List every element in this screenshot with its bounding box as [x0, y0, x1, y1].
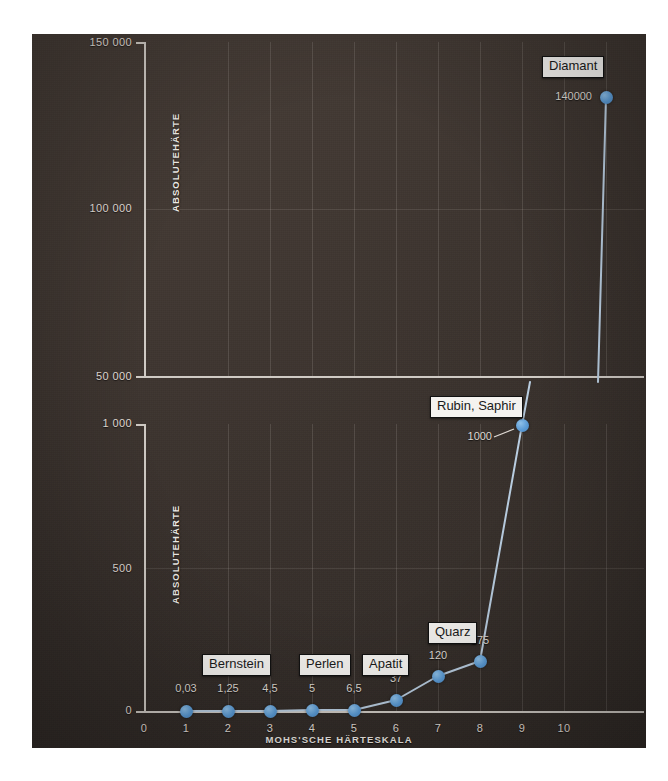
- xtick-0: 0: [124, 722, 164, 734]
- data-point-4-5[interactable]: [264, 705, 277, 718]
- xtick-8: 8: [460, 722, 500, 734]
- upper-y-axis-line: [144, 42, 146, 377]
- xtick-9: 9: [502, 722, 542, 734]
- data-point-talk-0-03[interactable]: [180, 705, 193, 718]
- data-point-perlen[interactable]: [306, 704, 319, 717]
- lower-panel: 1 000 500 0 ABSOLUTEHÄRTE 0,03 1,2: [32, 382, 646, 748]
- data-point-diamant[interactable]: [600, 91, 613, 104]
- lower-axis-bottom-tick: [136, 711, 145, 713]
- callout-bernstein: Bernstein: [202, 654, 271, 676]
- xtick-6: 6: [376, 722, 416, 734]
- data-point-37[interactable]: [390, 694, 403, 707]
- xtick-10: 10: [544, 722, 584, 734]
- callout-apatit: Apatit: [362, 654, 409, 676]
- data-point-bernstein[interactable]: [222, 705, 235, 718]
- callout-quarz: Quarz: [428, 622, 477, 644]
- data-point-apatit[interactable]: [348, 704, 361, 717]
- lower-x-axis-line: [144, 711, 644, 713]
- value-label-1000: 1000: [430, 430, 492, 442]
- xtick-2: 2: [208, 722, 248, 734]
- value-label-140000: 140000: [520, 90, 592, 102]
- upper-ytick-50000: 50 000: [46, 370, 132, 382]
- lower-axis-top-tick: [136, 424, 145, 426]
- chart-page: 150 000 100 000 50 000 ABSOLUTEHÄRTE 140…: [0, 0, 668, 781]
- upper-x-axis-line: [144, 376, 644, 378]
- callout-perlen: Perlen: [299, 654, 351, 676]
- lower-ytick-500: 500: [46, 562, 132, 574]
- data-point-rubin-saphir[interactable]: [516, 419, 529, 432]
- xtick-4: 4: [292, 722, 332, 734]
- xtick-5: 5: [334, 722, 374, 734]
- lower-ytick-0: 0: [46, 704, 132, 716]
- xtick-7: 7: [418, 722, 458, 734]
- series-polyline-upper: [598, 97, 606, 382]
- data-point-quarz[interactable]: [432, 670, 445, 683]
- value-label-120: 120: [408, 649, 468, 661]
- callout-diamant: Diamant: [542, 56, 604, 78]
- chart-image-area: 150 000 100 000 50 000 ABSOLUTEHÄRTE 140…: [32, 34, 646, 748]
- upper-axis-bottom-tick: [136, 376, 145, 378]
- xtick-3: 3: [250, 722, 290, 734]
- x-axis-title: MOHS'SCHE HÄRTESKALA: [32, 734, 646, 745]
- lower-ytick-1000: 1 000: [46, 417, 132, 429]
- upper-axis-top-tick: [136, 42, 145, 44]
- gridline-h: [144, 209, 644, 210]
- upper-y-axis-title: ABSOLUTEHÄRTE: [170, 113, 181, 212]
- xtick-1: 1: [166, 722, 206, 734]
- upper-ytick-100000: 100 000: [46, 202, 132, 214]
- data-point-175[interactable]: [474, 655, 487, 668]
- lower-y-axis-title: ABSOLUTEHÄRTE: [170, 505, 181, 604]
- upper-panel: 150 000 100 000 50 000 ABSOLUTEHÄRTE 140…: [32, 34, 646, 382]
- upper-ytick-150000: 150 000: [46, 36, 132, 48]
- gridline-h: [144, 568, 644, 569]
- callout-rubin-saphir: Rubin, Saphir: [430, 396, 523, 418]
- lower-y-axis-line: [144, 424, 146, 712]
- leader-line-rubin: [494, 429, 514, 437]
